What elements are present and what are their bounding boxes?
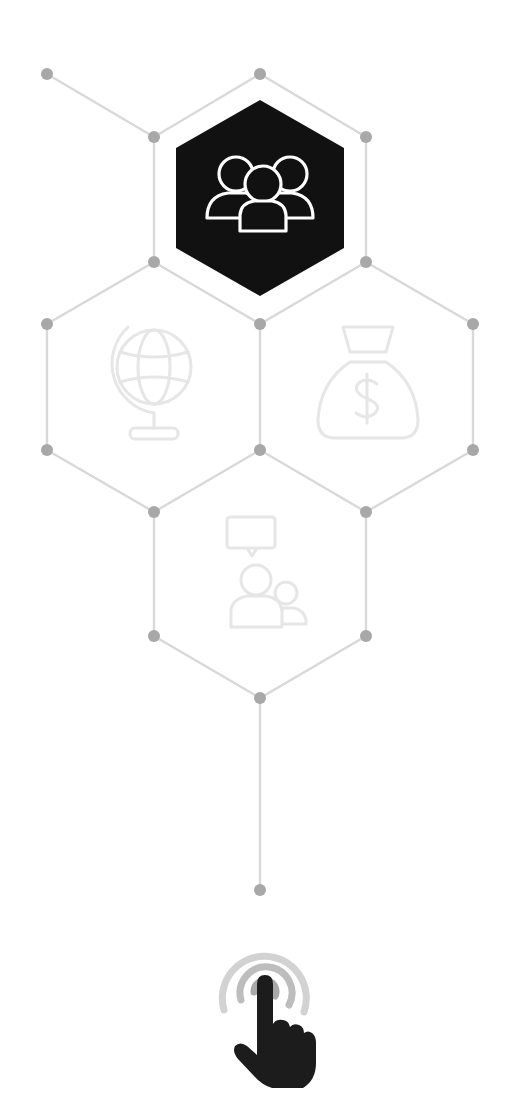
money-bag-icon bbox=[318, 327, 418, 438]
node-dot bbox=[254, 318, 266, 330]
hexagon-network-diagram bbox=[0, 0, 515, 1112]
hex-communication-inactive[interactable] bbox=[227, 517, 306, 627]
node-dot bbox=[41, 318, 53, 330]
node-dot bbox=[360, 131, 372, 143]
globe-icon bbox=[112, 327, 191, 439]
node-dot bbox=[254, 68, 266, 80]
hex-global-inactive[interactable] bbox=[112, 327, 191, 439]
node-dot bbox=[360, 506, 372, 518]
node-dot bbox=[467, 318, 479, 330]
hex-team-active[interactable] bbox=[176, 100, 344, 296]
node-dot bbox=[148, 506, 160, 518]
node-dot bbox=[254, 884, 266, 896]
node-dot bbox=[148, 630, 160, 642]
chat-people-icon bbox=[227, 517, 306, 627]
node-dot bbox=[467, 444, 479, 456]
node-dot bbox=[360, 630, 372, 642]
tap-action[interactable] bbox=[222, 956, 316, 1088]
node-dot bbox=[148, 256, 160, 268]
node-dot bbox=[41, 68, 53, 80]
node-dot bbox=[41, 444, 53, 456]
node-dot bbox=[360, 256, 372, 268]
node-dot bbox=[148, 131, 160, 143]
node-dot bbox=[254, 692, 266, 704]
hex-money-inactive[interactable] bbox=[318, 327, 418, 438]
node-dot bbox=[254, 444, 266, 456]
